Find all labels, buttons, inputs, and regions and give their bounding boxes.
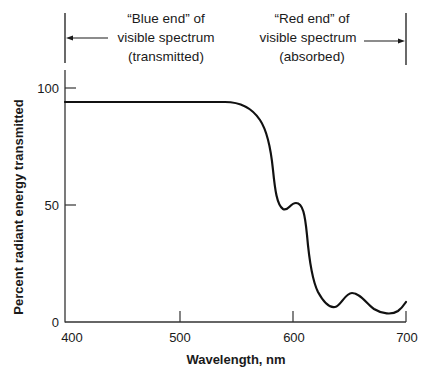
right-arrow-icon bbox=[398, 39, 405, 44]
blue-end-line1: “Blue end” of bbox=[127, 11, 205, 26]
x-axis-title: Wavelength, nm bbox=[186, 352, 285, 367]
red-end-line1: “Red end” of bbox=[274, 11, 349, 26]
y-tick-label-50: 50 bbox=[45, 198, 59, 213]
transmission-curve bbox=[65, 102, 406, 313]
red-end-line2: visible spectrum bbox=[260, 30, 357, 45]
blue-end-annotation: “Blue end” of visible spectrum (transmit… bbox=[65, 11, 214, 64]
x-tick-label-700: 700 bbox=[396, 330, 418, 345]
axes: 100 50 0 400 500 600 700 bbox=[37, 70, 418, 345]
x-tick-label-600: 600 bbox=[283, 330, 305, 345]
y-axis-title: Percent radiant energy transmitted bbox=[11, 99, 26, 314]
left-arrow-icon bbox=[66, 36, 73, 41]
red-end-annotation: “Red end” of visible spectrum (absorbed) bbox=[260, 11, 406, 65]
y-tick-label-100: 100 bbox=[37, 81, 59, 96]
red-end-line3: (absorbed) bbox=[279, 49, 344, 64]
blue-end-line3: (transmitted) bbox=[128, 49, 204, 64]
y-tick-label-0: 0 bbox=[52, 315, 59, 330]
x-tick-label-500: 500 bbox=[169, 330, 191, 345]
blue-end-line2: visible spectrum bbox=[118, 30, 215, 45]
x-tick-label-400: 400 bbox=[61, 330, 83, 345]
chart: “Blue end” of visible spectrum (transmit… bbox=[0, 0, 427, 377]
